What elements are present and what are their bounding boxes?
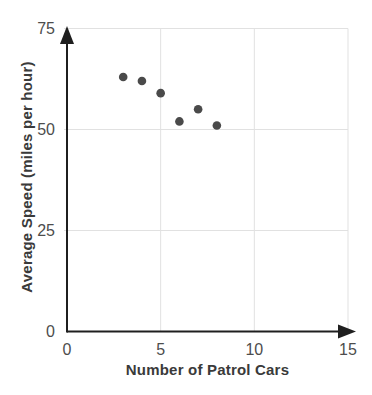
- y-tick-label: 25: [37, 222, 55, 239]
- chart-container: 0510150255075 Average Speed (miles per h…: [0, 0, 372, 395]
- data-point: [213, 121, 222, 130]
- x-tick-label: 0: [63, 341, 72, 358]
- y-tick-label: 0: [46, 323, 55, 340]
- y-tick-label: 75: [37, 20, 55, 37]
- y-tick-label: 50: [37, 121, 55, 138]
- x-tick-label: 10: [245, 341, 263, 358]
- x-axis-arrow: [338, 325, 356, 339]
- y-axis-title: Average Speed (miles per hour): [18, 61, 35, 292]
- x-tick-label: 5: [156, 341, 165, 358]
- data-point: [194, 105, 203, 114]
- data-point: [175, 117, 184, 126]
- scatter-plot-svg: 0510150255075: [0, 0, 372, 395]
- data-point: [156, 89, 165, 98]
- x-axis-title: Number of Patrol Cars: [67, 361, 348, 378]
- data-point: [138, 77, 147, 86]
- x-tick-label: 15: [339, 341, 357, 358]
- data-point: [119, 73, 128, 82]
